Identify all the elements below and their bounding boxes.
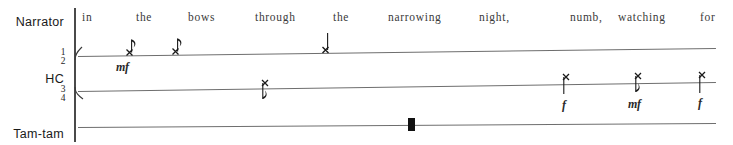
part-label-tam-tam: Tam-tam: [0, 127, 64, 141]
part-label-hc: HC: [0, 72, 64, 86]
time-signature-3-4: 3 4: [57, 85, 69, 102]
lyric-word: through: [255, 11, 296, 23]
note-x-quarter-down: [561, 74, 577, 100]
dynamic-marking: mf: [116, 60, 129, 75]
time-signature-1-2: 1 2: [57, 48, 69, 65]
dynamic-marking: f: [562, 98, 566, 113]
time-signature-denominator: 2: [57, 57, 69, 66]
note-x-eighth-up: [125, 38, 141, 62]
lyric-word: the: [333, 11, 349, 23]
lyric-word: for: [700, 11, 716, 23]
note-x-eighth-down: [633, 73, 649, 99]
lyric-word: night,: [479, 11, 510, 23]
lyric-word: narrowing: [388, 11, 442, 23]
note-x-quarter-down: [697, 72, 713, 98]
lyric-word: numb,: [570, 11, 603, 23]
note-x-quarter-up: [320, 32, 336, 58]
note-thick-bar-tam-tam: [408, 118, 415, 131]
part-label-narrator: Narrator: [0, 15, 64, 29]
dynamic-marking: f: [698, 96, 702, 111]
time-signature-denominator: 4: [57, 94, 69, 103]
staff-line-tam-tam: [78, 123, 716, 128]
music-score: Narrator HC Tam-tam in the bows through …: [0, 0, 733, 145]
lyric-word: bows: [188, 11, 215, 23]
lyric-word: the: [136, 11, 152, 23]
note-x-eighth-down: [260, 80, 276, 106]
lyric-word: watching: [618, 11, 666, 23]
note-x-eighth-up: [171, 37, 187, 61]
staff-start-hook-icon: [74, 47, 86, 61]
staff-line-hc: [78, 82, 716, 92]
dynamic-marking: mf: [628, 97, 641, 112]
system-barline: [74, 8, 76, 142]
lyric-word: in: [82, 11, 92, 23]
staff-start-hook-icon: [74, 84, 86, 98]
